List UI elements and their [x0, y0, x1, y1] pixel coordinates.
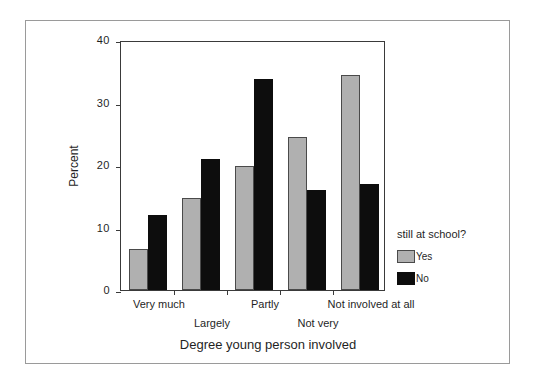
legend-label-no: No [416, 273, 429, 284]
x-tick-4 [333, 290, 334, 295]
y-tick-label-20: 20 [97, 159, 110, 171]
legend-swatch-yes [397, 250, 415, 263]
y-tick-40: 40 [116, 42, 121, 43]
x-category-label-not-involved: Not involved at all [328, 298, 415, 310]
bar-yes-1 [182, 198, 201, 291]
legend-label-yes: Yes [416, 251, 432, 262]
bar-yes-4 [341, 75, 360, 290]
x-tick-3 [280, 290, 281, 295]
legend-swatch-no [397, 272, 415, 285]
bar-no-1 [201, 159, 220, 290]
x-tick-2 [227, 290, 228, 295]
y-axis-title: Percent [67, 145, 81, 186]
legend-title: still at school? [397, 228, 497, 240]
y-tick-20: 20 [116, 167, 121, 168]
bar-yes-0 [129, 249, 148, 290]
legend-item-yes: Yes [397, 250, 497, 263]
y-tick-10: 10 [116, 230, 121, 231]
y-tick-0: 0 [116, 292, 121, 293]
bar-no-2 [254, 79, 273, 290]
x-category-label-partly: Partly [251, 298, 279, 310]
y-tick-label-10: 10 [97, 222, 110, 234]
bar-yes-2 [235, 166, 254, 290]
x-axis-title: Degree young person involved [180, 337, 356, 352]
y-tick-label-30: 30 [97, 97, 110, 109]
bar-chart: Percent 40 30 20 10 0 [0, 0, 535, 385]
y-tick-30: 30 [116, 105, 121, 106]
y-tick-label-0: 0 [103, 284, 110, 296]
x-category-label-very-much: Very much [133, 298, 185, 310]
bar-yes-3 [288, 137, 307, 290]
legend: still at school? Yes No [397, 228, 497, 294]
bar-no-0 [148, 215, 167, 290]
plot-area: 40 30 20 10 0 [120, 41, 385, 291]
bar-no-3 [307, 190, 326, 290]
legend-item-no: No [397, 272, 497, 285]
x-tick-1 [174, 290, 175, 295]
x-category-label-largely: Largely [194, 317, 230, 329]
bar-no-4 [360, 184, 379, 290]
x-category-label-not-very: Not very [298, 317, 339, 329]
y-tick-label-40: 40 [97, 34, 110, 46]
